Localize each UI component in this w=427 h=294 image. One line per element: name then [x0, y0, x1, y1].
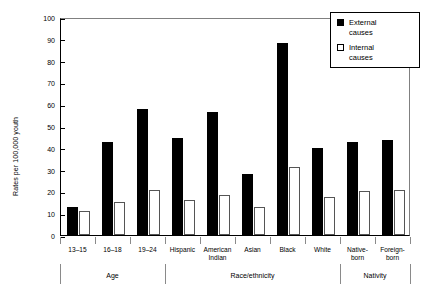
y-axis-tick-label: 70 — [47, 79, 55, 88]
y-axis-title-text: Rates per 100,000 youth — [12, 76, 19, 196]
group-label: Age — [60, 272, 165, 279]
bar-external — [382, 140, 393, 235]
y-axis-tick-mark — [61, 40, 65, 41]
bar-external — [172, 138, 183, 235]
bar-external — [312, 148, 323, 235]
category-separator — [375, 237, 376, 244]
bar-internal — [114, 202, 125, 235]
category-label: 13–15 — [60, 246, 95, 254]
category-separator — [200, 237, 201, 244]
category-label: Black — [270, 246, 305, 254]
y-axis-tick-label: 10 — [47, 210, 55, 219]
y-axis-tick-label: 30 — [47, 167, 55, 176]
category-label-line2: born — [375, 254, 410, 262]
y-axis-tick-label: 20 — [47, 188, 55, 197]
y-axis-tick-mark — [61, 128, 65, 129]
y-axis-tick-mark — [61, 84, 65, 85]
category-separator — [270, 237, 271, 244]
y-axis-tick-mark — [61, 171, 65, 172]
y-axis-title: Rates per 100,000 youth — [2, 0, 9, 78]
legend-label-external-line2: causes — [349, 28, 373, 37]
filled-square-icon — [337, 19, 344, 26]
category-label: Native-born — [340, 246, 375, 262]
category-label: Asian — [235, 246, 270, 254]
category-label-line2: born — [340, 254, 375, 262]
y-axis-tick-mark — [61, 193, 65, 194]
bar-external — [102, 142, 113, 235]
category-label: 16–18 — [95, 246, 130, 254]
bar-external — [347, 142, 358, 235]
y-axis-tick-mark — [61, 19, 65, 20]
group-label: Race/ethnicity — [165, 272, 340, 279]
y-axis-tick-mark — [61, 237, 65, 238]
legend-label-internal: Internal causes — [349, 43, 374, 62]
y-axis-tick-label: 100 — [43, 14, 55, 23]
y-axis-tick-label: 80 — [47, 58, 55, 67]
y-axis-tick-label: 40 — [47, 145, 55, 154]
category-label: AmericanIndian — [200, 246, 235, 262]
bar-internal — [149, 190, 160, 235]
category-separator — [165, 237, 166, 244]
bar-internal — [289, 167, 300, 235]
category-label: White — [305, 246, 340, 254]
bar-internal — [394, 190, 405, 235]
bar-internal — [79, 211, 90, 235]
bar-external — [207, 112, 218, 235]
category-label-line1: 16–18 — [95, 246, 130, 254]
category-label-line1: Hispanic — [165, 246, 200, 254]
hollow-square-icon — [337, 44, 344, 51]
legend-label-external-line1: External — [349, 18, 377, 27]
legend-label-external: External causes — [349, 18, 377, 37]
category-label-line1: 19–24 — [130, 246, 165, 254]
category-separator — [60, 237, 61, 244]
bar-internal — [359, 191, 370, 235]
category-label-line1: Native- — [340, 246, 375, 254]
category-label: Foreign-born — [375, 246, 410, 262]
category-separator — [340, 237, 341, 244]
bar-internal — [219, 195, 230, 235]
category-label-line1: Foreign- — [375, 246, 410, 254]
bar-external — [242, 174, 253, 235]
category-separator — [305, 237, 306, 244]
category-separator — [410, 237, 411, 244]
category-separator — [235, 237, 236, 244]
bar-internal — [254, 207, 265, 235]
category-separator — [130, 237, 131, 244]
category-separator — [95, 237, 96, 244]
bar-external — [137, 109, 148, 235]
bar-chart: Rates per 100,000 youth 0102030405060708… — [0, 0, 427, 294]
category-label-line1: Asian — [235, 246, 270, 254]
category-label-line1: American — [200, 246, 235, 254]
y-axis-tick-mark — [61, 215, 65, 216]
y-axis-tick-label: 0 — [51, 232, 55, 241]
category-label-line2: Indian — [200, 254, 235, 262]
legend-label-internal-line2: causes — [349, 53, 373, 62]
bar-external — [67, 207, 78, 235]
category-label-line1: White — [305, 246, 340, 254]
legend-item-external: External causes — [337, 18, 414, 37]
category-label: Hispanic — [165, 246, 200, 254]
chart-legend: External causes Internal causes — [330, 12, 420, 68]
group-label: Nativity — [340, 272, 410, 279]
category-label: 19–24 — [130, 246, 165, 254]
bar-external — [277, 43, 288, 235]
y-axis-tick-label: 50 — [47, 123, 55, 132]
y-axis-tick-mark — [61, 62, 65, 63]
y-axis-tick-label: 90 — [47, 36, 55, 45]
legend-item-internal: Internal causes — [337, 43, 414, 62]
bar-internal — [184, 200, 195, 235]
y-axis-tick-label: 60 — [47, 101, 55, 110]
y-axis-tick-mark — [61, 149, 65, 150]
legend-label-internal-line1: Internal — [349, 43, 374, 52]
bar-internal — [324, 197, 335, 235]
category-label-line1: 13–15 — [60, 246, 95, 254]
group-separator — [410, 264, 411, 284]
category-label-line1: Black — [270, 246, 305, 254]
y-axis-tick-mark — [61, 106, 65, 107]
